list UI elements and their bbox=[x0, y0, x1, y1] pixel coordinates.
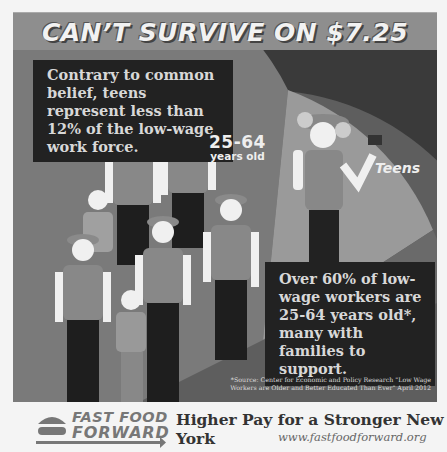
footer: FAST FOOD FORWARD Higher Pay for a Stron… bbox=[0, 402, 447, 452]
age-range-label: 25-64 bbox=[209, 132, 266, 152]
title-banner: CAN’T SURVIVE ON $7.25 bbox=[13, 12, 437, 51]
infographic-panel: Contrary to common belief, teens represe… bbox=[13, 50, 437, 402]
website-link[interactable]: www.fastfoodforward.org bbox=[278, 430, 427, 444]
logo-line2: FORWARD bbox=[72, 425, 170, 440]
teens-share-callout: Contrary to common belief, teens represe… bbox=[33, 60, 233, 162]
fast-food-forward-logo[interactable]: FAST FOOD FORWARD bbox=[36, 410, 166, 450]
source-citation: *Source: Center for Economic and Policy … bbox=[203, 376, 431, 392]
pie-label-25-64: 25-64 years old bbox=[209, 132, 266, 162]
adults-share-callout: Over 60% of low-wage workers are 25-64 y… bbox=[265, 262, 435, 386]
pie-label-teens: Teens bbox=[375, 160, 420, 176]
page-title: CAN’T SURVIVE ON $7.25 bbox=[42, 18, 408, 47]
age-range-sublabel: years old bbox=[209, 150, 266, 162]
